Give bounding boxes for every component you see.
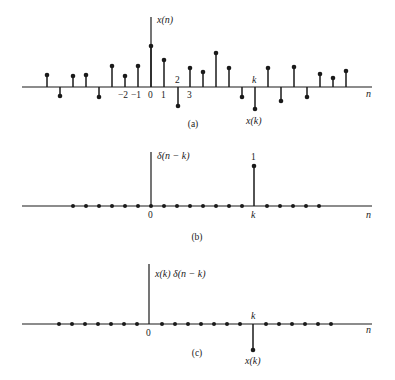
zero-sample-dot <box>71 204 75 208</box>
zero-sample-dot <box>70 322 74 326</box>
zero-sample-dot <box>175 204 179 208</box>
zero-sample-dot <box>97 204 101 208</box>
zero-sample-dot <box>291 204 295 208</box>
panel-a-stems <box>45 44 349 112</box>
zero-sample-dot <box>214 204 218 208</box>
zero-sample-dot <box>162 204 166 208</box>
stem-dot <box>292 65 297 70</box>
tick-label-3: 3 <box>187 90 192 100</box>
zero-sample-dot <box>96 322 100 326</box>
zero-sample-dot <box>199 322 203 326</box>
zero-sample-dot <box>135 322 139 326</box>
panel-b-impulse-dot <box>252 164 257 169</box>
zero-sample-dot <box>290 322 294 326</box>
tick-label-2: 2 <box>175 75 180 85</box>
stem-dot <box>266 66 271 71</box>
stem-dot <box>188 66 193 71</box>
zero-sample-dot <box>84 204 88 208</box>
panel-a-ylabel: x(n) <box>156 14 174 26</box>
stem-dot <box>176 104 181 109</box>
stem-dot <box>227 66 232 71</box>
tick-label-0: 0 <box>148 90 153 100</box>
zero-sample-dot <box>225 322 229 326</box>
zero-sample-dot <box>201 204 205 208</box>
zero-sample-dot <box>188 204 192 208</box>
zero-sample-dot <box>83 322 87 326</box>
stem-dot <box>110 64 115 69</box>
panel-a-xlabel: n <box>366 88 371 99</box>
panel-c-product: x(k) δ(n − k) 0 k n x(k) (c) <box>22 264 372 367</box>
tick-label-minus-1: −1 <box>131 90 141 100</box>
panel-c-ylabel: x(k) δ(n − k) <box>154 268 206 280</box>
zero-sample-dot <box>240 204 244 208</box>
stem-dot <box>318 72 323 77</box>
stem-dot <box>71 74 76 79</box>
stem-dot <box>331 76 336 81</box>
zero-sample-dot <box>329 322 333 326</box>
panel-b-origin-label: 0 <box>148 210 153 220</box>
panel-a-caption: (a) <box>188 119 199 130</box>
zero-sample-dot <box>278 204 282 208</box>
stem-dot <box>84 73 89 78</box>
stem-dot <box>240 95 245 100</box>
stem-dot <box>162 58 167 63</box>
panel-b-k-label: k <box>251 209 256 220</box>
panel-c-xk-label: x(k) <box>244 355 261 367</box>
zero-sample-dot <box>122 322 126 326</box>
panel-b-delta-shifted: δ(n − k) 1 0 k n (b) <box>22 150 372 243</box>
stem-dot <box>149 44 154 49</box>
stem-dot <box>97 95 102 100</box>
panel-a-k-label: k <box>252 74 257 85</box>
zero-sample-dot <box>238 322 242 326</box>
zero-sample-dot <box>277 322 281 326</box>
zero-sample-dot <box>316 322 320 326</box>
zero-sample-dot <box>136 204 140 208</box>
panel-c-origin-label: 0 <box>146 328 151 338</box>
zero-sample-dot <box>149 204 153 208</box>
stem-dot <box>136 64 141 69</box>
zero-sample-dot <box>109 322 113 326</box>
stem-dot <box>201 70 206 75</box>
zero-sample-dot <box>227 204 231 208</box>
panel-b-caption: (b) <box>191 232 202 243</box>
stem-dot <box>279 99 284 104</box>
zero-sample-dot <box>123 204 127 208</box>
panel-c-caption: (c) <box>192 348 203 359</box>
zero-sample-dot <box>304 204 308 208</box>
stem-dot <box>214 51 219 56</box>
stem-dot <box>253 107 258 112</box>
zero-sample-dot <box>160 322 164 326</box>
panel-c-k-label: k <box>251 310 256 321</box>
figure-discrete-signal-decomposition: x(n) n −2 −1 0 1 2 3 k x(k) (a) δ(n − k)… <box>0 0 395 380</box>
zero-sample-dot <box>212 322 216 326</box>
stem-dot <box>305 95 310 100</box>
zero-sample-dot <box>173 322 177 326</box>
panel-b-ylabel: δ(n − k) <box>157 150 190 162</box>
tick-label-1: 1 <box>161 90 166 100</box>
zero-sample-dot <box>186 322 190 326</box>
panel-a-xk-label: x(k) <box>245 115 262 127</box>
zero-sample-dot <box>57 322 61 326</box>
zero-sample-dot <box>303 322 307 326</box>
stem-dot <box>58 94 63 99</box>
stem-dot <box>123 74 128 79</box>
panel-c-xlabel: n <box>366 324 371 335</box>
figure-svg: x(n) n −2 −1 0 1 2 3 k x(k) (a) δ(n − k)… <box>0 0 395 380</box>
zero-sample-dot <box>264 322 268 326</box>
panel-b-value-label: 1 <box>251 152 256 162</box>
tick-label-minus-2: −2 <box>118 90 128 100</box>
panel-b-xlabel: n <box>366 209 371 220</box>
zero-sample-dot <box>265 204 269 208</box>
zero-sample-dot <box>110 204 114 208</box>
stem-dot <box>45 73 50 78</box>
panel-a-signal-x-n: x(n) n −2 −1 0 1 2 3 k x(k) (a) <box>22 14 372 130</box>
stem-dot <box>344 69 349 74</box>
panel-c-impulse-dot <box>251 348 256 353</box>
zero-sample-dot <box>317 204 321 208</box>
